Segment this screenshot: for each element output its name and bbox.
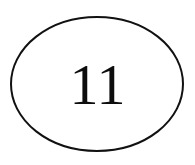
figure-canvas: 11 — [0, 0, 195, 165]
node-label: 11 — [0, 0, 195, 165]
